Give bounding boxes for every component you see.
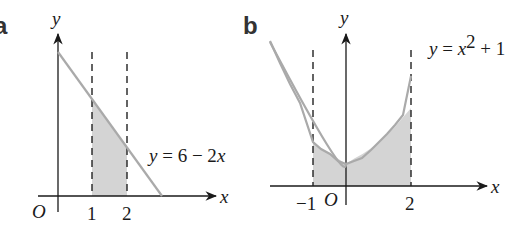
curve-y-x2-plus-1 — [270, 42, 346, 167]
x-axis-label-b: x — [490, 176, 500, 197]
origin-label-a: O — [32, 201, 46, 222]
tick-label-neg1: −1 — [296, 193, 316, 214]
y-axis-label-a: y — [50, 8, 61, 29]
tick-label-2-b: 2 — [405, 193, 415, 214]
panel-label-b: b — [243, 12, 258, 39]
x-axis-label-a: x — [219, 186, 229, 207]
panel-b: b y x O −1 2 y = x2 + 1 — [243, 7, 505, 214]
shaded-area-a — [92, 100, 127, 196]
origin-label-b: O — [324, 189, 338, 210]
diagram-canvas: a y x O 1 2 y = 6 − 2x b — [0, 0, 517, 228]
curve-label-a: y = 6 − 2x — [147, 145, 226, 166]
tick-label-2: 2 — [122, 203, 132, 224]
curve-label-b: y = x2 + 1 — [427, 31, 505, 59]
panel-a: a y x O 1 2 y = 6 − 2x — [0, 8, 229, 224]
panel-label-a: a — [0, 12, 8, 39]
tick-label-1: 1 — [87, 203, 97, 224]
y-axis-label-b: y — [338, 7, 349, 28]
